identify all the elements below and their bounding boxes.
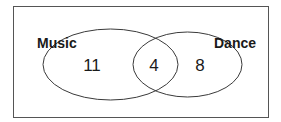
intersection-count: 4	[149, 56, 158, 75]
music-set-label: Music	[37, 35, 77, 51]
venn-diagram: Music Dance 11 4 8	[0, 0, 281, 122]
dance-only-count: 8	[195, 56, 204, 75]
universal-set-box	[14, 7, 269, 118]
dance-set-label: Dance	[214, 35, 256, 51]
music-only-count: 11	[83, 56, 101, 75]
